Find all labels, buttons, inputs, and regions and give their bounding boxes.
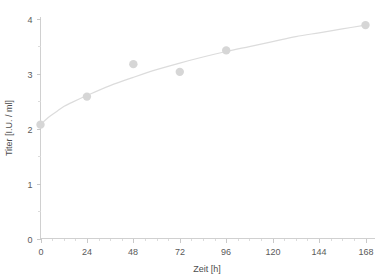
data-point xyxy=(36,120,44,128)
fit-curve xyxy=(41,25,366,125)
y-tick-label: 2 xyxy=(27,125,32,135)
data-point-group xyxy=(36,21,369,129)
x-tick-label: 120 xyxy=(265,247,280,257)
data-point xyxy=(83,92,91,100)
y-tick-label: 1 xyxy=(27,180,32,190)
x-axis-ticks xyxy=(42,239,367,243)
y-axis-ticks xyxy=(37,20,41,240)
y-axis-tick-labels: 01234 xyxy=(27,15,32,245)
data-point xyxy=(176,68,184,76)
x-tick-label: 144 xyxy=(311,247,326,257)
data-point xyxy=(222,46,230,54)
x-axis-tick-labels: 024487296120144168 xyxy=(38,247,373,257)
data-point xyxy=(361,21,369,29)
x-tick-label: 0 xyxy=(38,247,43,257)
data-point xyxy=(129,60,137,68)
x-tick-label: 96 xyxy=(221,247,231,257)
y-tick-label: 3 xyxy=(27,70,32,80)
scatter-plot: 01234 024487296120144168 Zeit [h] Titer … xyxy=(0,0,383,280)
y-axis-title: Titer [I.U. / ml] xyxy=(4,100,14,156)
x-axis-title: Zeit [h] xyxy=(193,264,221,274)
x-tick-label: 168 xyxy=(358,247,373,257)
chart-container: 01234 024487296120144168 Zeit [h] Titer … xyxy=(0,0,383,280)
y-tick-label: 4 xyxy=(27,15,32,25)
x-tick-label: 72 xyxy=(175,247,185,257)
y-tick-label: 0 xyxy=(27,235,32,245)
x-tick-label: 48 xyxy=(128,247,138,257)
x-tick-label: 24 xyxy=(82,247,92,257)
